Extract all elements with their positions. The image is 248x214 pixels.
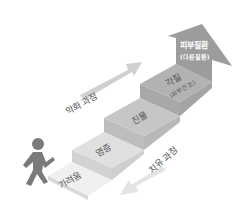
staircase-graphic <box>0 0 248 214</box>
top-arrow-sublabel: (다른질환) <box>180 54 209 60</box>
healing-arrow-icon <box>120 166 166 195</box>
top-arrow-label: 피부질환 <box>180 42 208 50</box>
staircase-diagram: 악화 과정 치유 과정 가려움 염증 진물 각질 (피부건조) 피부질환 (다른… <box>0 0 248 214</box>
